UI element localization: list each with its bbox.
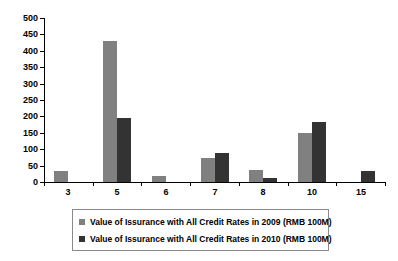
legend-item-2009: Value of Issurance with All Credit Rates… bbox=[79, 216, 332, 228]
y-tick-label: 150 bbox=[0, 128, 38, 137]
x-tick-label: 6 bbox=[163, 188, 168, 198]
bar-chart: 050100150200250300350400450500 356781015… bbox=[0, 0, 398, 261]
x-tick bbox=[190, 182, 191, 186]
y-tick-label: 0 bbox=[0, 178, 38, 187]
x-tick bbox=[288, 182, 289, 186]
bar bbox=[263, 178, 277, 182]
bar bbox=[103, 41, 117, 182]
y-tick-label: 350 bbox=[0, 63, 38, 72]
bar bbox=[54, 171, 68, 182]
y-tick-label: 400 bbox=[0, 46, 38, 55]
y-tick-label: 50 bbox=[0, 161, 38, 170]
bar bbox=[312, 122, 326, 182]
legend-label-2009: Value of Issurance with All Credit Rates… bbox=[90, 218, 332, 227]
bar bbox=[298, 133, 312, 182]
y-tick-label: 100 bbox=[0, 145, 38, 154]
x-tick-label: 15 bbox=[356, 188, 366, 198]
x-tick-label: 8 bbox=[260, 188, 265, 198]
bar bbox=[201, 158, 215, 182]
chart-legend: Value of Issurance with All Credit Rates… bbox=[72, 209, 329, 251]
x-tick-label: 7 bbox=[212, 188, 217, 198]
x-tick bbox=[385, 182, 386, 186]
y-tick-label: 450 bbox=[0, 30, 38, 39]
legend-swatch-2010-icon bbox=[79, 236, 85, 242]
x-axis-line bbox=[44, 182, 385, 183]
bar bbox=[117, 118, 131, 182]
bar bbox=[361, 171, 375, 182]
bar bbox=[249, 170, 263, 182]
legend-label-2010: Value of Issurance with All Credit Rates… bbox=[90, 235, 332, 244]
plot-area bbox=[44, 18, 385, 182]
x-tick-label: 5 bbox=[114, 188, 119, 198]
x-tick bbox=[239, 182, 240, 186]
x-tick bbox=[93, 182, 94, 186]
x-tick bbox=[44, 182, 45, 186]
legend-swatch-2009-icon bbox=[79, 219, 85, 225]
y-tick-label: 300 bbox=[0, 79, 38, 88]
bar bbox=[152, 176, 166, 182]
legend-item-2010: Value of Issurance with All Credit Rates… bbox=[79, 233, 332, 245]
x-tick bbox=[336, 182, 337, 186]
bar bbox=[215, 153, 229, 182]
y-tick-label: 200 bbox=[0, 112, 38, 121]
y-tick-label: 500 bbox=[0, 14, 38, 23]
y-tick-label: 250 bbox=[0, 96, 38, 105]
x-tick-label: 3 bbox=[65, 188, 70, 198]
x-tick-label: 10 bbox=[307, 188, 317, 198]
x-tick bbox=[141, 182, 142, 186]
